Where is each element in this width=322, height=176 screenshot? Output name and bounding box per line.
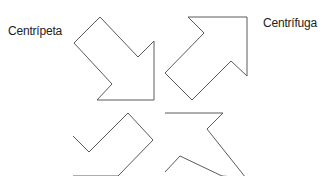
arrow-down-right-icon [74,17,154,100]
arrow-down-left-icon [73,113,153,176]
label-centripeta: Centrípeta [8,24,62,38]
arrow-up-left-icon [165,113,246,176]
arrow-up-right-icon [165,17,247,100]
label-centrifuga: Centrífuga [263,16,317,30]
